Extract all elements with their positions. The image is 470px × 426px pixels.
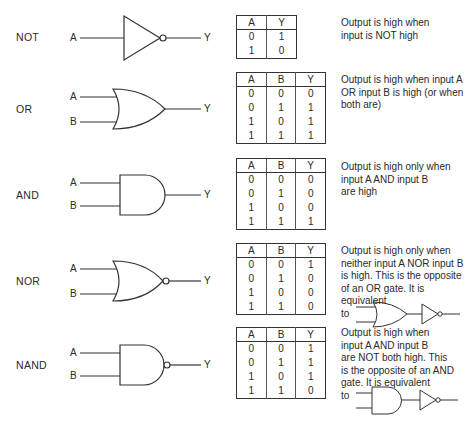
cell: 0: [266, 258, 296, 273]
cell: 0: [266, 286, 296, 300]
cell: 0: [266, 370, 296, 384]
cell: 1: [296, 342, 326, 357]
table-row: 111: [237, 215, 326, 230]
header-a: A: [237, 159, 267, 173]
and-description: Output is high only when input A AND inp…: [341, 161, 451, 199]
header-y: Y: [296, 73, 326, 87]
cell: 1: [237, 384, 267, 399]
cell: 1: [237, 300, 267, 315]
desc-line: input is NOT high: [341, 30, 429, 43]
cell: 0: [296, 187, 326, 201]
cell: 0: [237, 173, 267, 188]
desc-line: gate. It is equivalent: [341, 377, 454, 390]
cell: 1: [296, 258, 326, 273]
header-b: B: [266, 244, 296, 258]
and-input-b-label: B: [70, 200, 77, 211]
table-row: 0 1: [237, 30, 297, 45]
cell: 1: [266, 187, 296, 201]
header-y: Y: [267, 16, 297, 30]
nand-description: Output is high when input A AND input B …: [341, 327, 454, 403]
table-row: 111: [237, 129, 326, 144]
table-row: 011: [237, 356, 326, 370]
or-input-b-label: B: [70, 116, 77, 127]
cell: 1: [266, 101, 296, 115]
cell: 0: [237, 187, 267, 201]
cell: 0: [266, 201, 296, 215]
header-b: B: [266, 328, 296, 342]
nor-input-a-label: A: [70, 263, 77, 274]
cell: 1: [237, 201, 267, 215]
cell: 0: [237, 87, 267, 102]
desc-line: to: [341, 308, 470, 321]
table-row: 110: [237, 384, 326, 399]
or-description: Output is high when input A OR input B i…: [341, 74, 463, 112]
nand-truth-table: A B Y 001 011 101 110: [236, 327, 326, 399]
cell: 0: [237, 356, 267, 370]
nor-input-b-label: B: [70, 288, 77, 299]
cell: 0: [266, 342, 296, 357]
cell: 0: [237, 101, 267, 115]
desc-line: neither input A NOR input B: [341, 258, 470, 271]
desc-line: OR input B is high (or when: [341, 87, 463, 100]
cell: 1: [266, 129, 296, 144]
cell: 1: [296, 215, 326, 230]
not-output-y-label: Y: [204, 32, 211, 43]
gate-label-nand: NAND: [16, 359, 47, 371]
gate-label-or: OR: [16, 103, 32, 115]
cell: 0: [296, 201, 326, 215]
table-row: 001: [237, 258, 326, 273]
cell: 0: [296, 173, 326, 188]
header-y: Y: [296, 244, 326, 258]
and-input-a-label: A: [70, 177, 77, 188]
cell: 0: [237, 342, 267, 357]
table-row: 001: [237, 342, 326, 357]
cell: 0: [267, 44, 297, 59]
not-gate-symbol: [80, 16, 201, 60]
gate-label-nor: NOR: [16, 275, 40, 287]
desc-line: input A AND input B: [341, 174, 451, 187]
desc-line: Output is high when input A: [341, 74, 463, 87]
table-row: 100: [237, 201, 326, 215]
table-row: 110: [237, 300, 326, 315]
cell: 0: [296, 87, 326, 102]
desc-line: is the opposite of an AND: [341, 365, 454, 378]
not-truth-table: A Y 0 1 1 0: [236, 15, 297, 59]
not-input-a-label: A: [70, 32, 77, 43]
desc-line: of an OR gate. It is equivalent: [341, 283, 470, 308]
gate-label-and: AND: [16, 189, 39, 201]
cell: 1: [267, 30, 297, 45]
table-row: 011: [237, 101, 326, 115]
header-a: A: [237, 16, 267, 30]
nor-description: Output is high only when neither input A…: [341, 245, 470, 321]
table-row: 010: [237, 187, 326, 201]
not-description: Output is high when input is NOT high: [341, 17, 429, 42]
desc-line: input A AND input B: [341, 340, 454, 353]
cell: 1: [296, 370, 326, 384]
cell: 1: [237, 129, 267, 144]
nand-input-a-label: A: [70, 347, 77, 358]
table-row: 101: [237, 115, 326, 129]
cell: 0: [237, 258, 267, 273]
nand-output-y-label: Y: [204, 359, 211, 370]
nor-output-y-label: Y: [204, 275, 211, 286]
or-output-y-label: Y: [204, 103, 211, 114]
cell: 0: [237, 272, 267, 286]
desc-line: Output is high only when: [341, 245, 470, 258]
table-row: 000: [237, 173, 326, 188]
cell: 1: [237, 370, 267, 384]
cell: 0: [296, 286, 326, 300]
cell: 1: [266, 356, 296, 370]
desc-line: are NOT both high. This: [341, 352, 454, 365]
cell: 0: [296, 384, 326, 399]
and-gate-symbol: [80, 175, 201, 215]
cell: 0: [237, 30, 267, 45]
cell: 1: [266, 300, 296, 315]
nand-gate-symbol: [80, 345, 201, 385]
desc-line: Output is high only when: [341, 161, 451, 174]
and-output-y-label: Y: [204, 189, 211, 200]
header-y: Y: [296, 328, 326, 342]
cell: 1: [266, 215, 296, 230]
nand-input-b-label: B: [70, 370, 77, 381]
table-row: 1 0: [237, 44, 297, 59]
header-y: Y: [296, 159, 326, 173]
